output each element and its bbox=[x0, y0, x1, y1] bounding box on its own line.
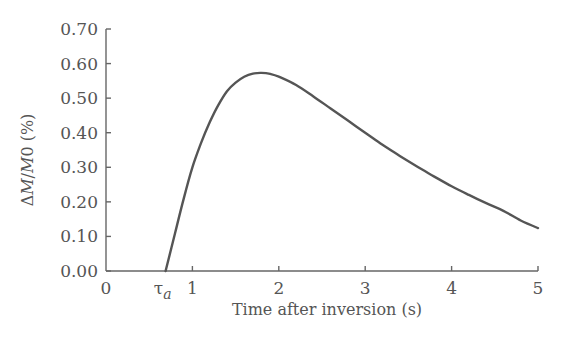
y-tick-label: 0.70 bbox=[60, 19, 98, 39]
y-tick-label: 0.40 bbox=[60, 123, 98, 143]
x-tick-label: 1 bbox=[187, 278, 198, 298]
tau-a-annotation: τa bbox=[154, 278, 172, 302]
x-tick-label: 2 bbox=[273, 278, 284, 298]
line-chart: 0.000.100.200.300.400.500.600.70 012345 … bbox=[0, 0, 567, 340]
data-curve bbox=[166, 73, 538, 271]
y-axis-title: ΔM/M0 (%) bbox=[18, 114, 37, 207]
y-tick-label: 0.30 bbox=[60, 157, 98, 177]
y-tick-label: 0.10 bbox=[60, 226, 98, 246]
y-ticks: 0.000.100.200.300.400.500.600.70 bbox=[60, 19, 111, 281]
y-axis: 0.000.100.200.300.400.500.600.70 bbox=[60, 19, 111, 281]
x-tick-label: 5 bbox=[533, 278, 544, 298]
x-tick-label: 0 bbox=[101, 278, 112, 298]
x-axis-title: Time after inversion (s) bbox=[232, 300, 422, 319]
y-tick-label: 0.60 bbox=[60, 54, 98, 74]
y-tick-label: 0.20 bbox=[60, 192, 98, 212]
x-tick-label: 4 bbox=[446, 278, 457, 298]
y-tick-label: 0.50 bbox=[60, 88, 98, 108]
annotations: τa bbox=[154, 278, 172, 302]
y-tick-label: 0.00 bbox=[60, 261, 98, 281]
x-tick-label: 3 bbox=[360, 278, 371, 298]
